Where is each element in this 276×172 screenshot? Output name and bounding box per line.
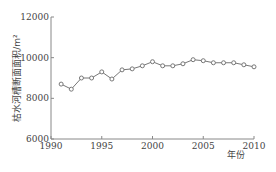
data-point-marker bbox=[242, 63, 246, 67]
x-tick-label: 1990 bbox=[40, 141, 63, 151]
data-point-marker bbox=[151, 60, 155, 64]
data-point-marker bbox=[252, 65, 256, 69]
y-tick-label: 8000 bbox=[26, 93, 49, 103]
y-axis-title: 枯水河槽断面面积/m² bbox=[11, 34, 22, 122]
data-point-marker bbox=[211, 61, 215, 65]
data-point-marker bbox=[161, 64, 165, 68]
data-point-marker bbox=[69, 87, 73, 91]
y-tick-label: 12000 bbox=[20, 12, 49, 22]
data-point-marker bbox=[79, 76, 83, 80]
x-axis-title: 年份 bbox=[227, 149, 245, 160]
line-chart: 600080001000012000 19901995200020052010 … bbox=[0, 0, 276, 172]
data-point-marker bbox=[191, 58, 195, 62]
x-tick-label: 2000 bbox=[141, 141, 164, 151]
x-tick-label: 2010 bbox=[243, 141, 266, 151]
data-series bbox=[59, 58, 256, 91]
data-point-marker bbox=[140, 64, 144, 68]
y-ticks: 600080001000012000 bbox=[20, 12, 54, 144]
x-tick-label: 2005 bbox=[192, 141, 215, 151]
data-point-marker bbox=[201, 59, 205, 63]
x-ticks: 19901995200020052010 bbox=[40, 136, 266, 151]
data-point-marker bbox=[130, 67, 134, 71]
data-point-marker bbox=[100, 70, 104, 74]
y-tick-label: 10000 bbox=[20, 53, 49, 63]
data-point-marker bbox=[90, 76, 94, 80]
data-point-marker bbox=[120, 68, 124, 72]
data-point-marker bbox=[110, 77, 114, 81]
data-point-marker bbox=[222, 61, 226, 65]
x-tick-label: 1995 bbox=[90, 141, 113, 151]
data-point-marker bbox=[59, 82, 63, 86]
data-point-marker bbox=[171, 64, 175, 68]
data-point-marker bbox=[232, 61, 236, 65]
data-point-marker bbox=[181, 62, 185, 66]
